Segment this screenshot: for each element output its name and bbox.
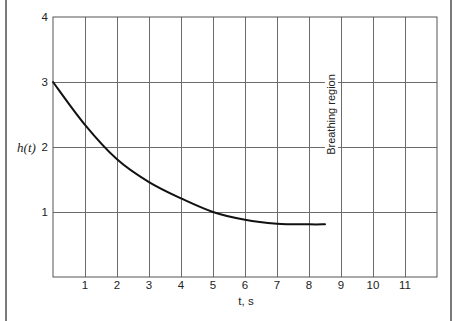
- x-tick-label: 5: [210, 279, 216, 291]
- data-curve: [53, 82, 325, 224]
- grid-lines: [53, 17, 437, 277]
- annotations: Breathing region: [325, 74, 337, 155]
- y-tick-label: 4: [42, 11, 49, 23]
- chart-svg: 1234567891011 1234 h(t) t, s Breathing r…: [0, 0, 455, 321]
- x-tick-label: 1: [82, 279, 88, 291]
- breathing-region-annotation: Breathing region: [325, 74, 337, 155]
- y-tick-label: 2: [42, 141, 48, 153]
- x-tick-label: 3: [146, 279, 152, 291]
- x-tick-label: 11: [399, 279, 411, 291]
- x-tick-label: 10: [367, 279, 380, 291]
- x-axis-label: t, s: [238, 295, 254, 307]
- frame-left-border: [5, 0, 7, 321]
- x-axis-ticks: 1234567891011: [82, 279, 411, 291]
- x-tick-label: 4: [178, 279, 185, 291]
- frame-right-border: [450, 0, 452, 321]
- y-tick-label: 3: [42, 76, 48, 88]
- x-tick-label: 2: [114, 279, 120, 291]
- x-tick-label: 7: [274, 279, 280, 291]
- y-axis-ticks: 1234: [42, 11, 49, 218]
- x-tick-label: 6: [242, 279, 248, 291]
- x-tick-label: 9: [338, 279, 344, 291]
- chart-figure: 1234567891011 1234 h(t) t, s Breathing r…: [0, 0, 455, 321]
- y-tick-label: 1: [42, 206, 48, 218]
- x-tick-label: 8: [306, 279, 312, 291]
- y-axis-label: h(t): [17, 140, 36, 155]
